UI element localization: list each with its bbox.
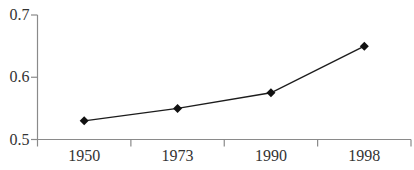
line-chart: 0.50.60.71950197319901998	[0, 0, 414, 170]
x-axis-tick-label: 1950	[68, 147, 100, 164]
x-axis-tick-label: 1998	[348, 147, 380, 164]
data-point-marker	[173, 104, 182, 113]
y-axis-tick-label: 0.5	[10, 131, 30, 148]
data-series-line	[84, 46, 364, 121]
chart-canvas: 0.50.60.71950197319901998	[0, 0, 414, 170]
data-point-marker	[80, 116, 89, 125]
y-axis-tick-label: 0.7	[10, 6, 30, 23]
x-axis-tick-label: 1973	[162, 147, 194, 164]
data-point-marker	[360, 42, 369, 51]
x-axis-tick-label: 1990	[255, 147, 287, 164]
data-point-marker	[266, 88, 275, 97]
y-axis-tick-label: 0.6	[10, 68, 30, 85]
